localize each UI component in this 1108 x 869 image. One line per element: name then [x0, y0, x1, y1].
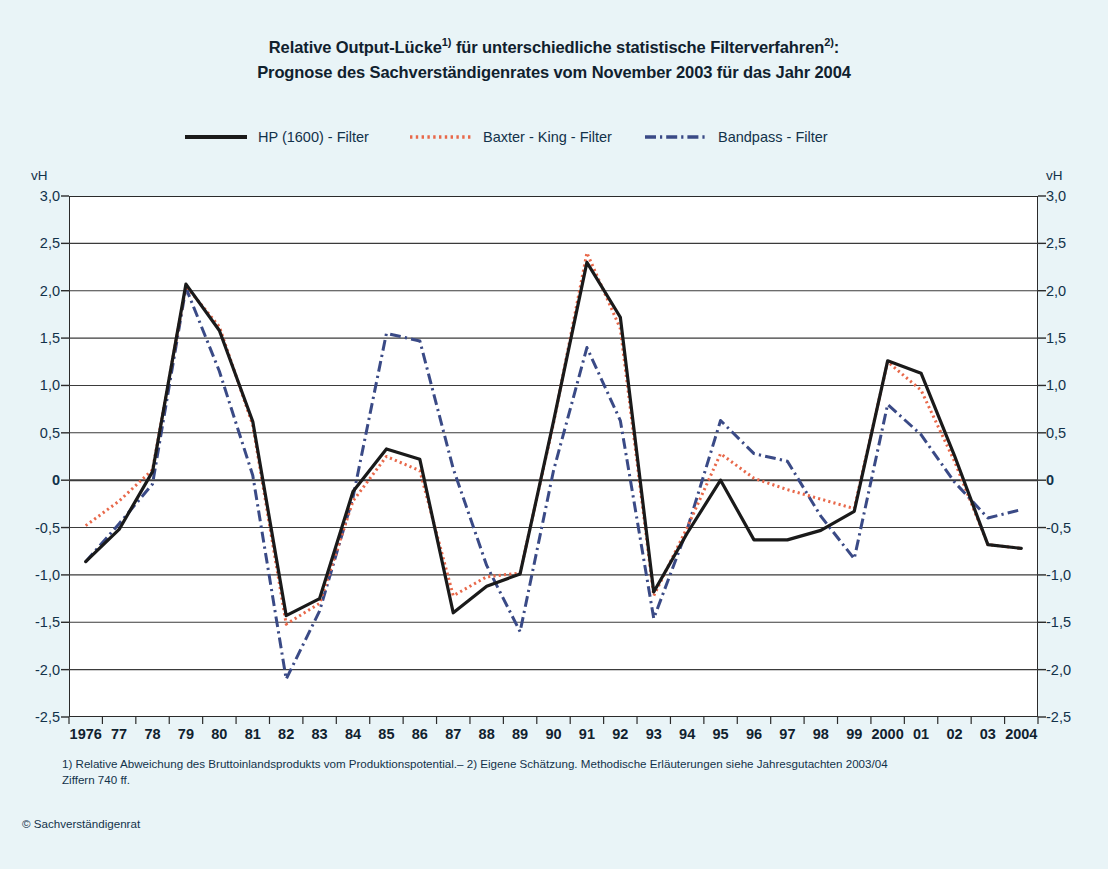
x-axis-ticks — [69, 717, 1038, 724]
copyright-notice: © Sachverständigenrat — [22, 817, 140, 830]
y-axis-tick-label: -0,5 — [10, 520, 60, 536]
y-axis-tick-label: 3,0 — [1046, 188, 1098, 204]
y-axis-tick-label: 2,0 — [10, 283, 60, 299]
legend-swatch-dotted-icon — [410, 130, 472, 144]
title-line-1-part-c: : — [834, 38, 839, 56]
title-line-1: Relative Output-Lücke1) für unterschiedl… — [0, 30, 1108, 60]
legend-label-hp: HP (1600) - Filter — [258, 129, 369, 145]
chart-legend: HP (1600) - Filter Baxter - King - Filte… — [185, 126, 885, 150]
y-axis-tick-label: 0,5 — [1046, 425, 1098, 441]
legend-swatch-solid-icon — [185, 130, 247, 144]
y-axis-tick-label: 0 — [10, 472, 60, 488]
y-axis-tick-label: 2,0 — [1046, 283, 1098, 299]
y-axis-tick-label: -1,5 — [1046, 614, 1098, 630]
y-axis-tick-label: -2,0 — [1046, 662, 1098, 678]
legend-swatch-dashdot-icon — [645, 130, 707, 144]
y-axis-tick-label: -2,0 — [10, 662, 60, 678]
y-axis-tick-label: -1,0 — [10, 567, 60, 583]
footnote-line-1: 1) Relative Abweichung des Bruttoinlands… — [62, 756, 1062, 772]
y-axis-tick-label: -2,5 — [1046, 709, 1098, 725]
x-axis-tick-label: 2004 — [993, 726, 1049, 742]
title-line-2: Prognose des Sachverständigenrates vom N… — [0, 60, 1108, 85]
y-axis-tick-label: -1,5 — [10, 614, 60, 630]
y-axis-tick-label: 3,0 — [10, 188, 60, 204]
legend-label-bandpass: Bandpass - Filter — [718, 129, 828, 145]
plot-frame — [69, 196, 1038, 717]
y-axis-unit-right: vH — [1046, 168, 1063, 183]
y-axis-tick-label: -1,0 — [1046, 567, 1098, 583]
legend-item-hp: HP (1600) - Filter — [185, 126, 369, 148]
title-line-1-part-b: für unterschiedliche statistische Filter… — [451, 38, 824, 56]
y-axis-tick-label: -0,5 — [1046, 520, 1098, 536]
y-axis-tick-label: 1,0 — [10, 377, 60, 393]
title-footnote-marker-1: 1) — [442, 36, 452, 48]
footnote-line-2: Ziffern 740 ff. — [62, 772, 1062, 788]
title-line-1-part-a: Relative Output-Lücke — [269, 38, 442, 56]
y-axis-tick-label: 2,5 — [10, 235, 60, 251]
title-footnote-marker-2: 2) — [824, 36, 834, 48]
legend-label-baxter-king: Baxter - King - Filter — [483, 129, 612, 145]
y-axis-tick-label: -2,5 — [10, 709, 60, 725]
page-title: Relative Output-Lücke1) für unterschiedl… — [0, 30, 1108, 85]
y-axis-tick-label: 2,5 — [1046, 235, 1098, 251]
chart-area: vH vH 3,03,02,52,52,02,01,51,51,01,00,50… — [0, 160, 1108, 760]
chart-page: Relative Output-Lücke1) für unterschiedl… — [0, 0, 1108, 869]
legend-item-bandpass: Bandpass - Filter — [645, 126, 828, 148]
y-axis-tick-label: 1,0 — [1046, 377, 1098, 393]
footnote: 1) Relative Abweichung des Bruttoinlands… — [62, 756, 1062, 788]
y-axis-unit-left: vH — [31, 168, 48, 183]
legend-item-baxter-king: Baxter - King - Filter — [410, 126, 612, 148]
y-axis-tick-label: 0 — [1046, 472, 1098, 488]
y-axis-tick-label: 1,5 — [10, 330, 60, 346]
y-axis-tick-label: 0,5 — [10, 425, 60, 441]
y-axis-tick-label: 1,5 — [1046, 330, 1098, 346]
